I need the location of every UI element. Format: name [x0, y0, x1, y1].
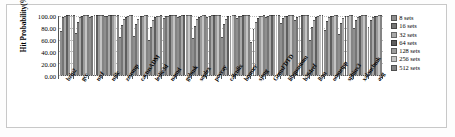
bar-group: [104, 16, 119, 75]
legend-item: 32 sets: [391, 31, 445, 39]
legend-item: 64 sets: [391, 39, 445, 47]
chart-figure: Hit Probability(%) 100.0080.0060.0040.00…: [0, 0, 455, 137]
y-axis-tick-label: 80.00: [22, 24, 56, 33]
y-axis-tick-labels: 100.0080.0060.0040.0020.000.00: [22, 13, 56, 75]
legend-swatch-icon: [391, 32, 397, 38]
y-axis-tick-label: 100.00: [22, 12, 56, 21]
y-axis-tick-label: 40.00: [22, 48, 56, 57]
y-axis-tick-label: 60.00: [22, 36, 56, 45]
legend-label: 256 sets: [399, 55, 420, 63]
legend-label: 32 sets: [399, 31, 417, 39]
y-axis-tick-label: 20.00: [22, 60, 56, 69]
legend-label: 64 sets: [399, 39, 417, 47]
y-axis-tick-label: 0.00: [22, 72, 56, 81]
chart-legend: 8 sets16 sets32 sets64 sets128 sets256 s…: [391, 14, 445, 70]
bar-group: [324, 16, 339, 75]
legend-label: 512 sets: [399, 64, 420, 72]
legend-item: 16 sets: [391, 22, 445, 30]
legend-swatch-icon: [391, 15, 397, 21]
legend-swatch-icon: [391, 23, 397, 29]
legend-item: 256 sets: [391, 55, 445, 63]
legend-swatch-icon: [391, 65, 397, 71]
legend-label: 8 sets: [399, 14, 413, 22]
bar: [380, 15, 382, 75]
legend-item: 512 sets: [391, 64, 445, 72]
legend-swatch-icon: [391, 48, 397, 54]
bar-group: [75, 16, 90, 75]
legend-label: 128 sets: [399, 47, 420, 55]
x-axis-tick-labels: bzip2gccmcfmilczeusmpcactusADMleslie3dna…: [58, 78, 383, 124]
legend-swatch-icon: [391, 56, 397, 62]
legend-item: 8 sets: [391, 14, 445, 22]
bar-group: [265, 16, 280, 75]
bar-group: [177, 16, 192, 75]
legend-swatch-icon: [391, 40, 397, 46]
legend-label: 16 sets: [399, 22, 417, 30]
legend-item: 128 sets: [391, 47, 445, 55]
bar-group: [89, 16, 104, 75]
